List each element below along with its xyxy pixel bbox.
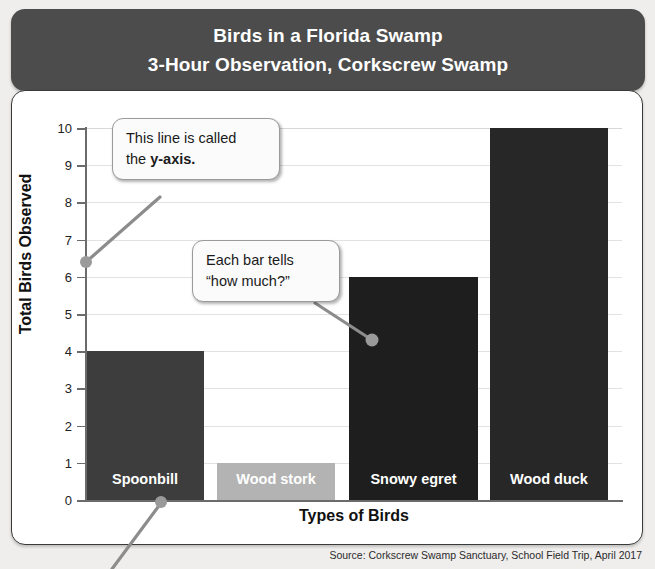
bar-snowy-egret[interactable]: Snowy egret [349, 277, 478, 500]
ytick-mark-10 [77, 128, 86, 130]
callout-y-axis-line1: This line is called [126, 128, 266, 149]
x-axis-line [85, 500, 623, 502]
y-axis-title: Total Birds Observed [17, 124, 35, 384]
x-axis-title: Types of Birds [86, 507, 622, 525]
ytick-label-8: 8 [46, 195, 72, 210]
bar-wood-duck[interactable]: Wood duck [490, 128, 608, 500]
ytick-mark-9 [77, 165, 86, 167]
ytick-mark-2 [77, 426, 86, 428]
ytick-label-3: 3 [46, 381, 72, 396]
bar-label-snowy-egret: Snowy egret [349, 471, 478, 487]
ytick-mark-6 [77, 277, 86, 279]
callout-y-axis-line2-prefix: the [126, 151, 150, 167]
ytick-label-2: 2 [46, 418, 72, 433]
ytick-label-10: 10 [46, 121, 72, 136]
header-banner: Birds in a Florida Swamp 3-Hour Observat… [11, 9, 645, 91]
ytick-mark-5 [77, 314, 86, 316]
ytick-label-1: 1 [46, 455, 72, 470]
bar-wood-stork[interactable]: Wood stork [217, 463, 335, 500]
bar-label-wood-duck: Wood duck [490, 471, 608, 487]
chart-title-block: Birds in a Florida Swamp 3-Hour Observat… [11, 21, 645, 79]
ytick-mark-0 [77, 500, 86, 502]
ytick-mark-3 [77, 388, 86, 390]
ytick-label-7: 7 [46, 232, 72, 247]
bar-label-spoonbill: Spoonbill [86, 471, 204, 487]
ytick-label-0: 0 [46, 493, 72, 508]
bar-label-wood-stork: Wood stork [217, 471, 335, 487]
bar-spoonbill[interactable]: Spoonbill [86, 351, 204, 500]
ytick-mark-4 [77, 351, 86, 353]
chart-title-line2: 3-Hour Observation, Corkscrew Swamp [11, 50, 645, 79]
callout-bar-meaning[interactable]: Each bar tells “how much?” [192, 240, 340, 302]
ytick-mark-8 [77, 202, 86, 204]
callout-y-axis-term: y-axis. [150, 151, 195, 167]
ytick-mark-7 [77, 240, 86, 242]
chart-title-line1: Birds in a Florida Swamp [11, 21, 645, 50]
plot-area: Spoonbill Wood stork Snowy egret Wood du… [86, 128, 622, 500]
callout-y-axis[interactable]: This line is called the y-axis. [112, 118, 280, 180]
ytick-label-6: 6 [46, 269, 72, 284]
infographic-page: Birds in a Florida Swamp 3-Hour Observat… [0, 0, 655, 569]
callout-y-axis-line2: the y-axis. [126, 149, 266, 170]
ytick-label-4: 4 [46, 344, 72, 359]
source-note: Source: Corkscrew Swamp Sanctuary, Schoo… [329, 549, 642, 561]
y-tick-labels: 10 9 8 7 6 5 4 3 2 1 0 [42, 0, 72, 569]
callout-bar-line2: “how much?” [206, 271, 326, 292]
ytick-label-5: 5 [46, 307, 72, 322]
callout-bar-line1: Each bar tells [206, 250, 326, 271]
ytick-mark-1 [77, 463, 86, 465]
ytick-label-9: 9 [46, 158, 72, 173]
